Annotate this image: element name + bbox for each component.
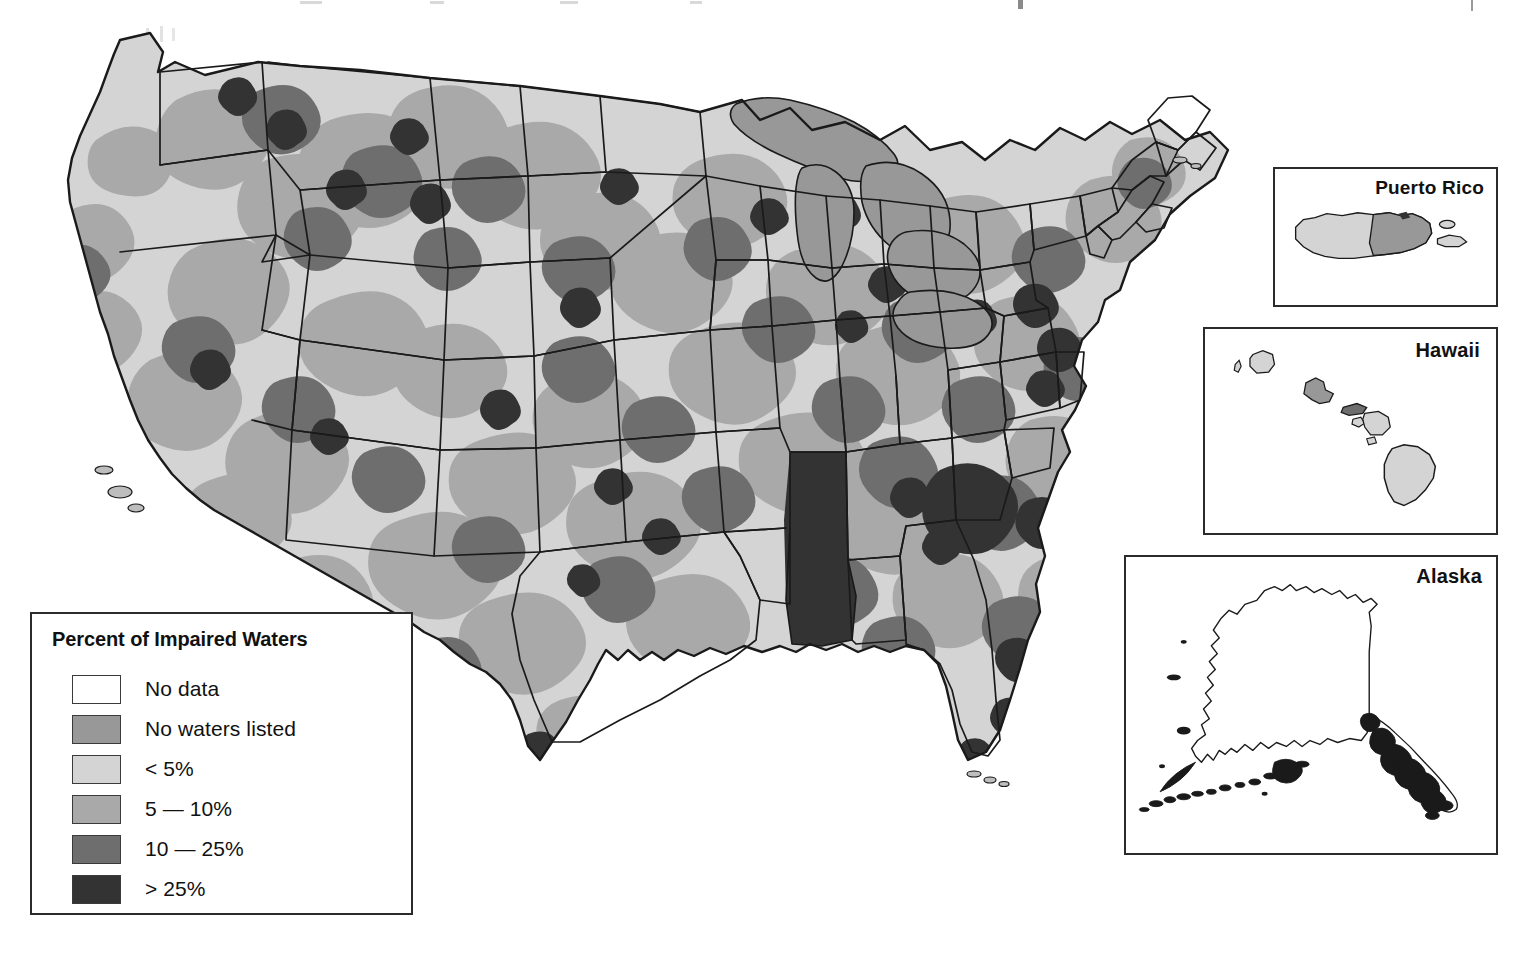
legend-swatch-no-data — [72, 675, 121, 704]
legend-swatch-10-to-25 — [72, 835, 121, 864]
legend-items: No data No waters listed < 5% 5 — 10% 10… — [72, 669, 401, 909]
oahu-island — [1304, 378, 1333, 404]
inset-hawaii: Hawaii — [1203, 327, 1498, 535]
legend-row-no-waters-listed: No waters listed — [72, 709, 401, 749]
puerto-rico-east — [1369, 213, 1431, 256]
hawaii-big-island — [1384, 445, 1435, 506]
legend-swatch-no-waters-listed — [72, 715, 121, 744]
legend-row-no-data: No data — [72, 669, 401, 709]
kauai-island — [1250, 351, 1275, 374]
legend-row-under-5: < 5% — [72, 749, 401, 789]
legend-title: Percent of Impaired Waters — [52, 628, 308, 651]
kahoolawe-island — [1367, 437, 1377, 445]
legend-label-no-waters-listed: No waters listed — [145, 717, 296, 741]
legend-label-over-25: > 25% — [145, 877, 206, 901]
inset-canvas-alaska — [1126, 557, 1496, 853]
maui-island — [1363, 411, 1390, 435]
legend-label-under-5: < 5% — [145, 757, 194, 781]
inset-label-alaska: Alaska — [1416, 565, 1482, 588]
inset-alaska: Alaska — [1124, 555, 1498, 855]
map-page: Puerto Rico Hawaii — [0, 0, 1516, 960]
inset-puerto-rico: Puerto Rico — [1273, 167, 1498, 307]
legend-row-5-to-10: 5 — 10% — [72, 789, 401, 829]
map-legend: Percent of Impaired Waters No data No wa… — [30, 612, 413, 915]
inset-label-hawaii: Hawaii — [1415, 339, 1480, 362]
scan-artifact — [1471, 0, 1473, 11]
niihau-island — [1234, 360, 1241, 372]
legend-swatch-under-5 — [72, 755, 121, 784]
legend-label-10-to-25: 10 — 25% — [145, 837, 244, 861]
legend-label-5-to-10: 5 — 10% — [145, 797, 232, 821]
vieques-island — [1437, 235, 1466, 247]
legend-swatch-5-to-10 — [72, 795, 121, 824]
legend-label-no-data: No data — [145, 677, 219, 701]
molokai-island — [1341, 404, 1367, 416]
culebra-island — [1439, 220, 1455, 228]
inset-label-puerto-rico: Puerto Rico — [1375, 177, 1484, 199]
legend-swatch-over-25 — [72, 875, 121, 904]
legend-row-over-25: > 25% — [72, 869, 401, 909]
alaska-svg — [1126, 557, 1496, 853]
legend-row-10-to-25: 10 — 25% — [72, 829, 401, 869]
state-mississippi-fill — [784, 452, 856, 646]
